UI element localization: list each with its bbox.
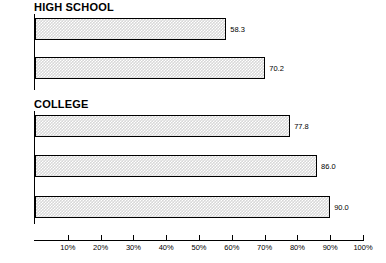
section-heading-high-school: HIGH SCHOOL bbox=[34, 1, 114, 13]
axis-tick bbox=[199, 235, 200, 240]
bar-rect bbox=[35, 155, 317, 177]
bar-value-label: 58.3 bbox=[230, 25, 245, 34]
bar-value-label: 77.8 bbox=[294, 122, 309, 131]
axis-tick bbox=[363, 235, 364, 240]
axis-tick-label: 100% bbox=[353, 243, 372, 252]
bar-rect bbox=[35, 18, 226, 40]
axis-tick bbox=[330, 235, 331, 240]
axis-tick bbox=[101, 235, 102, 240]
bar-rect bbox=[35, 196, 330, 218]
bar-chart: HIGH SCHOOL 1–3 years 58.3 4 years 70.2 … bbox=[0, 0, 386, 263]
section-heading-college: COLLEGE bbox=[34, 98, 89, 110]
axis-tick-label: 80% bbox=[290, 243, 305, 252]
value-axis: 10%20%30%40%50%60%70%80%90%100% bbox=[0, 234, 386, 263]
axis-tick bbox=[133, 235, 134, 240]
bar-rect bbox=[35, 57, 265, 79]
axis-tick bbox=[68, 235, 69, 240]
axis-tick bbox=[232, 235, 233, 240]
bar-value-label: 70.2 bbox=[269, 64, 284, 73]
bar-rect bbox=[35, 115, 290, 137]
value-axis-line bbox=[34, 240, 364, 241]
bar-value-label: 90.0 bbox=[334, 203, 349, 212]
axis-tick-label: 30% bbox=[126, 243, 141, 252]
axis-tick-label: 70% bbox=[257, 243, 272, 252]
axis-tick-label: 90% bbox=[323, 243, 338, 252]
axis-tick-label: 10% bbox=[60, 243, 75, 252]
axis-tick-label: 20% bbox=[93, 243, 108, 252]
axis-tick bbox=[166, 235, 167, 240]
axis-tick bbox=[265, 235, 266, 240]
axis-tick-label: 40% bbox=[159, 243, 174, 252]
axis-tick bbox=[297, 235, 298, 240]
bar-value-label: 86.0 bbox=[321, 162, 336, 171]
axis-tick-label: 60% bbox=[224, 243, 239, 252]
axis-tick-label: 50% bbox=[191, 243, 206, 252]
